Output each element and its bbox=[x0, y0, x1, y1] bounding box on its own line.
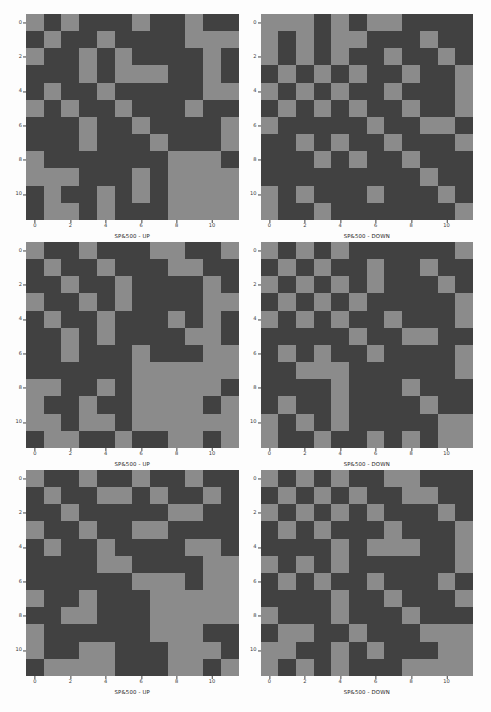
x-axis-tick-label: 4 bbox=[104, 679, 107, 684]
y-axis-tick-label: 2 bbox=[253, 282, 256, 287]
heatmap-cell bbox=[367, 379, 385, 396]
heatmap-cell bbox=[261, 607, 279, 624]
heatmap-cell bbox=[278, 504, 296, 521]
heatmap-cell bbox=[261, 504, 279, 521]
heatmap-cell bbox=[115, 362, 133, 379]
heatmap-cell bbox=[221, 624, 239, 641]
heatmap-cell bbox=[420, 487, 438, 504]
heatmap-cell bbox=[420, 242, 438, 259]
heatmap-cell bbox=[402, 624, 420, 641]
heatmap-cell bbox=[384, 607, 402, 624]
heatmap-cell bbox=[115, 48, 133, 65]
heatmap-cell bbox=[349, 607, 367, 624]
heatmap-cell bbox=[79, 487, 97, 504]
heatmap-cell bbox=[203, 100, 221, 117]
heatmap-cell bbox=[402, 328, 420, 345]
heatmap-cell bbox=[402, 259, 420, 276]
heatmap-cell bbox=[203, 642, 221, 659]
heatmap-cell bbox=[296, 168, 314, 185]
x-axis-tick-label: 4 bbox=[339, 679, 342, 684]
y-axis-tick-label: 4 bbox=[253, 545, 256, 550]
heatmap-cell bbox=[79, 590, 97, 607]
heatmap-cell bbox=[132, 65, 150, 82]
heatmap-cell bbox=[168, 276, 186, 293]
y-axis-tick-label: 2 bbox=[19, 282, 22, 287]
heatmap-cell bbox=[168, 203, 186, 220]
heatmap-cell bbox=[314, 504, 332, 521]
heatmap-cell bbox=[367, 487, 385, 504]
heatmap-cell bbox=[331, 624, 349, 641]
heatmap-cell bbox=[97, 487, 115, 504]
heatmap-cell bbox=[203, 573, 221, 590]
heatmap-cell bbox=[150, 134, 168, 151]
heatmap-cell bbox=[44, 14, 62, 31]
heatmap-cell bbox=[79, 362, 97, 379]
y-axis-tick-label: 10 bbox=[16, 420, 22, 425]
heatmap-cell bbox=[349, 573, 367, 590]
heatmap-cell bbox=[349, 259, 367, 276]
y-axis-tick-label: 0 bbox=[253, 476, 256, 481]
heatmap-cell bbox=[438, 414, 456, 431]
heatmap-cell bbox=[367, 242, 385, 259]
heatmap-cell bbox=[185, 521, 203, 538]
heatmap-cell bbox=[314, 14, 332, 31]
x-axis-tick-label: 8 bbox=[409, 223, 412, 228]
heatmap-cell bbox=[261, 556, 279, 573]
heatmap-cell bbox=[26, 259, 44, 276]
heatmap-cell bbox=[26, 396, 44, 413]
heatmap-cell bbox=[438, 134, 456, 151]
heatmap-cell bbox=[203, 83, 221, 100]
heatmap-cell bbox=[150, 504, 168, 521]
heatmap-cell bbox=[115, 624, 133, 641]
heatmap-cell bbox=[438, 203, 456, 220]
heatmap-cell bbox=[150, 186, 168, 203]
heatmap-cell bbox=[61, 203, 79, 220]
heatmap-cell bbox=[185, 504, 203, 521]
y-axis-tick-label: 0 bbox=[19, 476, 22, 481]
heatmap-cell bbox=[367, 134, 385, 151]
heatmap-cell bbox=[420, 556, 438, 573]
heatmap-cell bbox=[115, 100, 133, 117]
heatmap-cell bbox=[261, 48, 279, 65]
heatmap-cell bbox=[44, 470, 62, 487]
heatmap-cell bbox=[420, 379, 438, 396]
heatmap-cell bbox=[115, 276, 133, 293]
heatmap-cell bbox=[221, 48, 239, 65]
heatmap-cell bbox=[185, 607, 203, 624]
heatmap-cell bbox=[402, 186, 420, 203]
heatmap-cell bbox=[384, 590, 402, 607]
heatmap-cell bbox=[221, 203, 239, 220]
heatmap-cell bbox=[61, 100, 79, 117]
x-axis-tick-label: 2 bbox=[69, 223, 72, 228]
heatmap-cell bbox=[455, 48, 473, 65]
heatmap-cell bbox=[79, 31, 97, 48]
x-axis-tick-label: 8 bbox=[409, 679, 412, 684]
heatmap-cell bbox=[168, 431, 186, 448]
heatmap-cell bbox=[296, 573, 314, 590]
heatmap-grid bbox=[26, 470, 239, 676]
panel-title: SP&500 - UP bbox=[26, 459, 239, 470]
heatmap-cell bbox=[26, 487, 44, 504]
heatmap-cell bbox=[44, 573, 62, 590]
heatmap-cell bbox=[168, 379, 186, 396]
heatmap-cell bbox=[331, 539, 349, 556]
heatmap-cell bbox=[455, 186, 473, 203]
heatmap-cell bbox=[150, 117, 168, 134]
heatmap-cell bbox=[115, 203, 133, 220]
heatmap-cell bbox=[261, 431, 279, 448]
heatmap-cell bbox=[261, 276, 279, 293]
heatmap-cell bbox=[314, 48, 332, 65]
x-axis-tick-label: 10 bbox=[443, 451, 449, 456]
heatmap-cell bbox=[221, 504, 239, 521]
heatmap-cell bbox=[349, 31, 367, 48]
heatmap-cell bbox=[221, 345, 239, 362]
heatmap-cell bbox=[97, 151, 115, 168]
heatmap-cell bbox=[314, 259, 332, 276]
heatmap-cell bbox=[438, 48, 456, 65]
heatmap-cell bbox=[79, 203, 97, 220]
heatmap-cell bbox=[455, 573, 473, 590]
heatmap-cell bbox=[296, 607, 314, 624]
heatmap-cell bbox=[296, 431, 314, 448]
heatmap-cell bbox=[115, 642, 133, 659]
heatmap-cell bbox=[150, 168, 168, 185]
